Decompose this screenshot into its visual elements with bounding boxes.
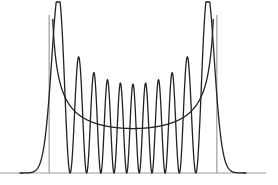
quantum-density-curve <box>20 2 247 173</box>
probability-density-plot <box>0 0 278 185</box>
